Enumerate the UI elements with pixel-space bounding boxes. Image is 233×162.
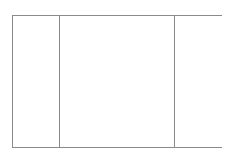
panel-center (60, 16, 174, 147)
panel-right (175, 16, 222, 147)
trifold-panel-diagram (0, 0, 233, 162)
diagram-canvas (0, 0, 233, 162)
panel-left (13, 16, 59, 147)
